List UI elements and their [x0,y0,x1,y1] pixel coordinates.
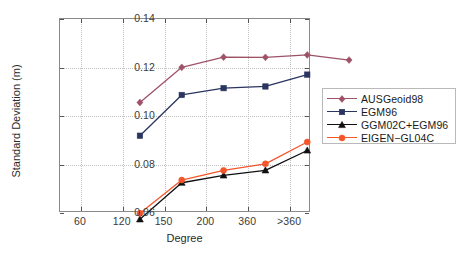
y-tick-mark [60,213,64,214]
gridline-vertical [206,19,207,211]
x-tick-label: 360 [238,215,256,227]
legend-item-ggm02c-egm96[interactable]: GGM02C+EGM96 [323,118,455,131]
x-tick-mark [81,207,82,211]
data-point-marker [339,95,345,102]
x-tick-label: 150 [155,215,173,227]
data-point-marker [339,109,344,114]
data-point-marker [137,99,143,106]
data-point-marker [178,179,185,185]
data-point-marker [221,85,226,90]
data-point-marker [262,54,268,61]
x-tick-mark [290,207,291,211]
y-tick-mark [305,116,309,117]
gridline-vertical [248,19,249,211]
x-tick-mark [81,19,82,23]
data-point-marker [304,139,310,145]
legend-item-ausgeoid98[interactable]: AUSGeoid98 [323,92,455,105]
x-tick-mark [123,207,124,211]
y-tick-label: 0.06 [134,206,155,218]
x-tick-mark [165,19,166,23]
y-tick-mark [60,165,64,166]
gridline-vertical [123,19,124,211]
x-tick-label: 60 [74,215,86,227]
legend-swatch-ausgeoid98 [327,93,357,105]
data-point-marker [220,172,227,178]
y-tick-mark [305,213,309,214]
data-point-marker [221,167,227,173]
y-tick-label: 0.14 [134,12,155,24]
x-tick-mark [123,19,124,23]
y-tick-label: 0.08 [134,158,155,170]
y-tick-mark [60,68,64,69]
gridline-horizontal [60,165,309,166]
y-tick-mark [305,19,309,20]
x-tick-mark [206,19,207,23]
legend-swatch-egm96 [327,106,357,118]
x-tick-label: 200 [196,215,214,227]
gridline-vertical [81,19,82,211]
data-point-marker [304,147,311,153]
legend-marker-square-icon [335,105,349,119]
gridline-vertical [290,19,291,211]
gridline-vertical [165,19,166,211]
data-point-marker [304,52,310,59]
legend-label-eigen-gl04c: EIGEN−GL04C [361,132,434,144]
gridline-horizontal [60,68,309,69]
data-point-marker [262,167,269,173]
y-tick-mark [60,116,64,117]
data-point-marker [137,133,142,138]
legend-item-eigen-gl04c[interactable]: EIGEN−GL04C [323,131,455,144]
y-tick-label: 0.10 [134,109,155,121]
data-point-marker [179,92,184,97]
series-line-ausgeoid98 [140,55,349,103]
data-point-marker [339,135,345,141]
data-point-marker [346,57,352,64]
x-tick-mark [248,19,249,23]
gridline-horizontal [60,116,309,117]
y-axis-title: Standard Deviation (m) [10,41,22,201]
x-tick-label: >360 [277,215,301,227]
x-tick-mark [290,19,291,23]
legend-swatch-ggm02c-egm96 [327,119,357,131]
figure-canvas: 0.060.080.100.120.14 60120150200360>360 … [0,0,469,259]
legend-label-ggm02c-egm96: GGM02C+EGM96 [361,119,448,131]
data-point-marker [339,121,346,127]
y-tick-label: 0.12 [134,61,155,73]
y-tick-mark [305,165,309,166]
legend: AUSGeoid98 EGM96 GGM02C+EGM96 EIGEN−GL04… [322,88,456,144]
x-tick-label: 120 [113,215,131,227]
legend-label-ausgeoid98: AUSGeoid98 [361,93,423,105]
legend-item-egm96[interactable]: EGM96 [323,105,455,118]
x-axis-title: Degree [59,232,310,244]
data-point-marker [263,84,268,89]
legend-marker-diamond-icon [335,92,349,106]
data-point-marker [179,177,185,183]
y-tick-mark [305,68,309,69]
legend-label-egm96: EGM96 [361,106,397,118]
data-point-marker [305,72,310,77]
legend-marker-circle-icon [335,131,349,145]
legend-marker-triangle-icon [335,118,349,132]
legend-swatch-eigen-gl04c [327,132,357,144]
x-tick-mark [248,207,249,211]
x-tick-mark [206,207,207,211]
x-tick-mark [165,207,166,211]
y-tick-mark [60,19,64,20]
plot-area [59,18,310,212]
data-point-marker [221,54,227,61]
